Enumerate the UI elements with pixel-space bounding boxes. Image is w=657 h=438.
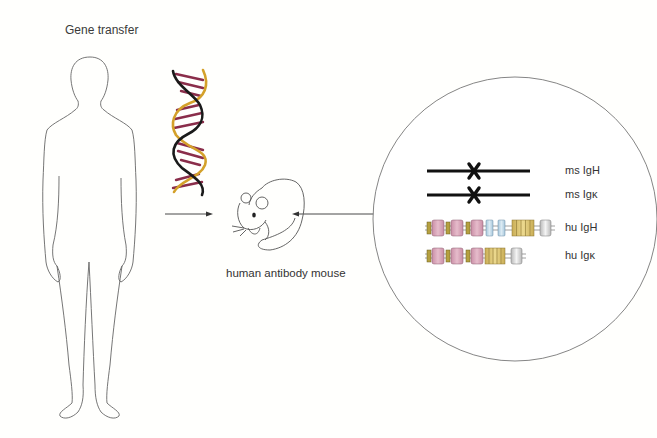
diagram-svg bbox=[0, 0, 657, 438]
arrow-inset-to-mouse bbox=[292, 212, 376, 217]
label-hu-igh: hu IgH bbox=[565, 221, 597, 233]
arrow-human-to-mouse bbox=[165, 212, 213, 217]
label-ms-igk: ms Igκ bbox=[565, 188, 597, 200]
mouse-label: human antibody mouse bbox=[226, 267, 346, 279]
dna-helix-icon bbox=[173, 70, 206, 195]
diagram-canvas: Gene transfer human antibody mouse ms Ig… bbox=[0, 0, 657, 438]
human-silhouette bbox=[43, 57, 137, 418]
diagram-title: Gene transfer bbox=[65, 23, 138, 37]
hu-igk-transgene bbox=[425, 248, 526, 264]
label-ms-igh: ms IgH bbox=[565, 164, 600, 176]
mouse-illustration bbox=[232, 179, 304, 250]
inset-circle bbox=[373, 77, 657, 361]
label-hu-igk: hu Igκ bbox=[565, 249, 595, 261]
